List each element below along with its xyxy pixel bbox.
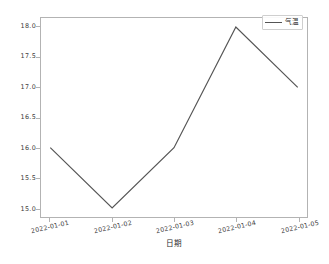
y-tick-label: 17.0	[6, 84, 36, 90]
chart-figure: 15.015.516.016.517.017.518.0 2022-01-012…	[0, 0, 329, 264]
x-tick-label: 2022-01-01	[31, 220, 70, 235]
y-tick-label: 15.5	[6, 175, 36, 181]
y-tick-label: 18.0	[6, 23, 36, 29]
x-tick-label: 2022-01-05	[280, 220, 319, 235]
x-tick-mark	[236, 218, 237, 222]
x-tick-label: 2022-01-03	[155, 220, 194, 235]
y-tick-label: 15.0	[6, 206, 36, 212]
plot-area	[40, 17, 308, 218]
y-tick-label: 16.5	[6, 114, 36, 120]
x-tick-mark	[174, 218, 175, 222]
x-axis-label: 日期	[40, 240, 308, 248]
y-tick-label: 17.5	[6, 53, 36, 59]
x-tick-mark	[112, 218, 113, 222]
line-series-svg	[41, 18, 307, 217]
chart-legend: 气温	[262, 15, 303, 30]
y-tick-label: 16.0	[6, 145, 36, 151]
x-tick-mark	[299, 218, 300, 222]
line-series-temperature	[50, 27, 297, 208]
legend-label: 气温	[285, 19, 299, 26]
x-tick-label: 2022-01-02	[93, 220, 132, 235]
x-tick-mark	[49, 218, 50, 222]
x-tick-label: 2022-01-04	[218, 220, 257, 235]
legend-line-swatch	[265, 22, 282, 23]
